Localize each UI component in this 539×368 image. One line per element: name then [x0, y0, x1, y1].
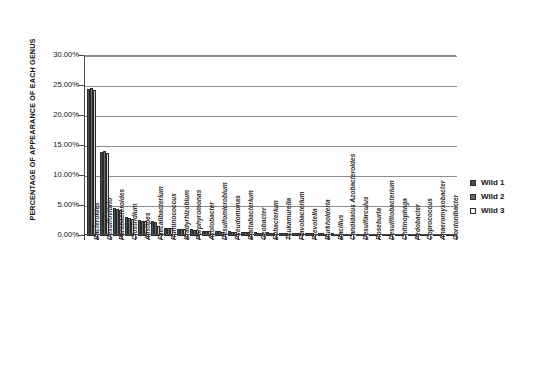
- legend: Wild 1Wild 2Wild 3: [470, 178, 536, 220]
- x-axis-label: Alistipes: [144, 212, 151, 240]
- x-axis-label: Faecalibacterium: [157, 186, 164, 240]
- x-axis-label: Pseudomonas: [234, 195, 241, 240]
- x-axis-label: Tsukamurella: [285, 198, 292, 240]
- x-axis-category-labels: BacteroidesDesulfovibrioParabacteroidesC…: [84, 240, 456, 360]
- y-axis-tick-label: 10.00%: [0, 170, 84, 179]
- x-axis-label: Coprococcus: [426, 198, 433, 240]
- legend-label: Wild 3: [481, 206, 504, 215]
- x-axis-label: Clostridium: [131, 203, 138, 240]
- x-axis-label: Desulfarculus: [362, 196, 369, 240]
- y-axis-tick-label: 25.00%: [0, 80, 84, 89]
- legend-item: Wild 3: [470, 206, 536, 215]
- y-axis-tick-label: 20.00%: [0, 110, 84, 119]
- legend-label: Wild 1: [481, 178, 504, 187]
- legend-swatch-icon: [470, 180, 476, 186]
- x-axis-label: Porphyromonas: [195, 190, 202, 240]
- x-axis-label: Parabacteroides: [118, 189, 125, 240]
- x-axis-label: Blattabacterium: [247, 190, 254, 240]
- bar-chart: PERCENTAGE OF APPEARANCE OF EACH GENUS 0…: [0, 0, 539, 368]
- x-axis-label: Anaeromyxobacter: [439, 181, 446, 241]
- y-axis-tick-label: 30.00%: [0, 50, 84, 59]
- y-axis-tick-label: 0.00%: [0, 230, 84, 239]
- legend-item: Wild 1: [470, 178, 536, 187]
- x-axis-label: Prevotella: [311, 208, 318, 240]
- x-axis-label: Bradyrhizobium: [183, 190, 190, 240]
- x-axis-label: Roseburia: [375, 208, 382, 240]
- x-axis-label: Gordonibacter: [452, 195, 459, 240]
- x-axis-label: Desulfovibrio: [106, 198, 113, 240]
- x-axis-label: Flavobacterium: [298, 191, 305, 240]
- x-axis-label: Eubacterium: [272, 200, 279, 240]
- legend-item: Wild 2: [470, 192, 536, 201]
- x-axis-label: Pedobacter: [414, 204, 421, 240]
- y-axis-tick-label: 5.00%: [0, 200, 84, 209]
- x-axis-label: Azotobacter: [208, 202, 215, 240]
- legend-label: Wild 2: [481, 192, 504, 201]
- x-axis-label: Bacillus: [337, 215, 344, 240]
- x-axis-label: Candidatus Azobacteroides: [349, 154, 356, 240]
- x-axis-label: Burkholderia: [324, 199, 331, 240]
- x-axis-label: Geobacter: [260, 207, 267, 240]
- x-axis-label: Ruminococcus: [170, 193, 177, 240]
- y-axis-tick-label: 15.00%: [0, 140, 84, 149]
- bar-group: [136, 56, 149, 236]
- x-axis-label: Bacteroides: [93, 202, 100, 240]
- x-axis-label: Desulfitobacterium: [388, 180, 395, 240]
- legend-swatch-icon: [470, 194, 476, 200]
- legend-swatch-icon: [470, 208, 476, 214]
- x-axis-label: Desulfomicrobium: [221, 182, 228, 240]
- x-axis-label: Chitinophaga: [401, 198, 408, 240]
